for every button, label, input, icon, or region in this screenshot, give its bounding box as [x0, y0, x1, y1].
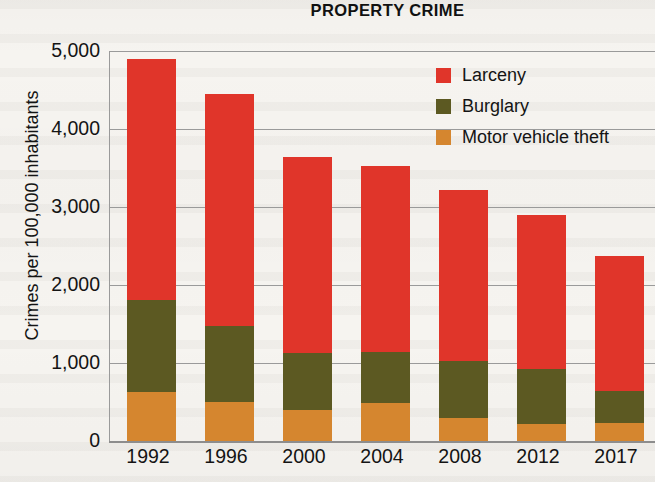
bar-segment-motor-vehicle-theft-2017[interactable] [595, 423, 644, 441]
x-tick-label-1996: 1996 [186, 445, 266, 468]
x-axis-line [109, 441, 655, 443]
chart-title: PROPERTY CRIME [0, 1, 655, 20]
legend-swatch-icon [436, 99, 451, 114]
bar-segment-burglary-1996[interactable] [205, 326, 254, 402]
y-tick-label-0: 0 [14, 431, 100, 451]
bar-segment-larceny-2012[interactable] [517, 215, 566, 369]
y-axis-line [109, 51, 110, 442]
bar-segment-burglary-2000[interactable] [283, 353, 332, 410]
bar-group-1992[interactable] [127, 51, 176, 441]
bar-segment-motor-vehicle-theft-2008[interactable] [439, 418, 488, 441]
chart-legend: LarcenyBurglaryMotor vehicle theft [436, 60, 651, 153]
bar-group-2000[interactable] [283, 51, 332, 441]
bar-segment-larceny-2000[interactable] [283, 157, 332, 353]
x-tick-label-2017: 2017 [576, 445, 655, 468]
bar-segment-larceny-1996[interactable] [205, 94, 254, 326]
legend-swatch-icon [436, 68, 451, 83]
x-tick-label-2004: 2004 [342, 445, 422, 468]
bar-segment-larceny-2008[interactable] [439, 190, 488, 360]
bar-segment-motor-vehicle-theft-2000[interactable] [283, 410, 332, 441]
bar-segment-motor-vehicle-theft-2012[interactable] [517, 424, 566, 441]
legend-item-larceny[interactable]: Larceny [436, 60, 651, 90]
bar-group-1996[interactable] [205, 51, 254, 441]
bar-segment-burglary-2012[interactable] [517, 369, 566, 424]
y-tick-label-3000: 3,000 [14, 197, 100, 217]
legend-item-motor-vehicle-theft[interactable]: Motor vehicle theft [436, 122, 651, 152]
bar-segment-motor-vehicle-theft-1992[interactable] [127, 392, 176, 441]
bar-segment-motor-vehicle-theft-1996[interactable] [205, 402, 254, 441]
bar-segment-burglary-2004[interactable] [361, 352, 410, 403]
legend-swatch-icon [436, 130, 451, 145]
legend-label: Larceny [462, 66, 526, 84]
legend-item-burglary[interactable]: Burglary [436, 91, 651, 121]
bar-group-2004[interactable] [361, 51, 410, 441]
x-tick-label-2012: 2012 [498, 445, 578, 468]
bar-segment-larceny-1992[interactable] [127, 59, 176, 300]
y-tick-label-1000: 1,000 [14, 353, 100, 373]
bar-segment-burglary-2008[interactable] [439, 361, 488, 418]
x-tick-label-1992: 1992 [108, 445, 188, 468]
y-tick-label-2000: 2,000 [14, 275, 100, 295]
bar-segment-burglary-1992[interactable] [127, 300, 176, 392]
legend-label: Motor vehicle theft [462, 128, 609, 146]
x-axis-tick-labels: 1992199620002004200820122017 [109, 445, 655, 475]
x-tick-label-2000: 2000 [264, 445, 344, 468]
y-tick-label-5000: 5,000 [14, 41, 100, 61]
x-tick-label-2008: 2008 [420, 445, 500, 468]
bar-segment-motor-vehicle-theft-2004[interactable] [361, 403, 410, 441]
y-tick-label-4000: 4,000 [14, 119, 100, 139]
bar-segment-larceny-2017[interactable] [595, 256, 644, 391]
property-crime-chart-figure: PROPERTY CRIME Crimes per 100,000 inhabi… [0, 0, 655, 482]
legend-label: Burglary [462, 97, 529, 115]
bar-segment-burglary-2017[interactable] [595, 391, 644, 423]
bar-segment-larceny-2004[interactable] [361, 166, 410, 352]
